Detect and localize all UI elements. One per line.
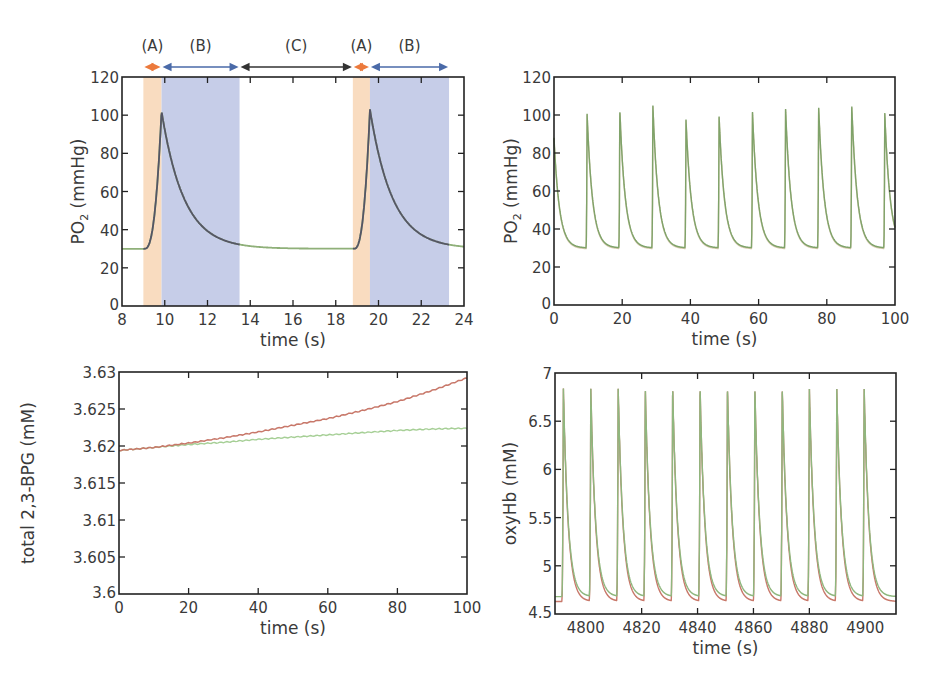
po2-trace-secondary xyxy=(554,106,895,248)
region-a xyxy=(353,77,370,306)
y-tick-label: 0 xyxy=(109,296,119,314)
x-tick-label: 12 xyxy=(198,311,217,329)
y-tick-label: 60 xyxy=(532,183,551,201)
arrowhead-right xyxy=(439,63,448,72)
x-tick-label: 16 xyxy=(283,311,302,329)
y-tick-label: 0 xyxy=(541,295,551,313)
x-axis-label: time (s) xyxy=(260,330,326,350)
plot-frame xyxy=(554,77,895,305)
x-tick-label: 40 xyxy=(681,310,700,328)
y-tick-label: 60 xyxy=(100,184,119,202)
x-tick-label: 4880 xyxy=(790,619,828,637)
arrowhead-right xyxy=(152,63,161,72)
region-b xyxy=(370,77,449,306)
y-tick-label: 3.6 xyxy=(92,584,116,602)
y-axis-label: total 2,3-BPG (mM) xyxy=(18,402,38,564)
panel-oxyhb: 4800482048404860488049004.555.566.57 tim… xyxy=(500,365,896,658)
y-tick-label: 120 xyxy=(90,69,119,87)
x-tick-label: 20 xyxy=(179,599,198,617)
phase-label-b: (B) xyxy=(190,37,212,55)
x-tick-label: 10 xyxy=(155,311,174,329)
x-tick-label: 60 xyxy=(318,599,337,617)
arrowhead-right xyxy=(343,63,352,72)
x-tick-label: 80 xyxy=(388,599,407,617)
y-tick-label: 3.625 xyxy=(73,401,116,419)
y-axis-label: oxyHb (mM) xyxy=(500,442,520,545)
arrowhead-left xyxy=(371,63,380,72)
x-tick-label: 4800 xyxy=(567,619,605,637)
y-tick-label: 3.605 xyxy=(73,549,116,567)
y-tick-label: 3.62 xyxy=(83,438,116,456)
x-tick-label: 14 xyxy=(241,311,260,329)
plot-frame xyxy=(119,372,467,594)
y-tick-label: 40 xyxy=(532,221,551,239)
bpg-trace-red xyxy=(119,378,467,451)
x-tick-label: 40 xyxy=(249,599,268,617)
oxyhb-trace-red xyxy=(555,389,896,602)
y-axis-label: PO2 (mmHg) xyxy=(501,138,524,244)
y-tick-label: 5.5 xyxy=(528,510,552,528)
phase-label-a: (A) xyxy=(141,37,163,55)
y-axis-label: PO2 (mmHg) xyxy=(68,138,91,244)
y-tick-label: 3.63 xyxy=(83,364,116,382)
x-tick-label: 60 xyxy=(749,310,768,328)
panel-po2-100s: 020406080100020406080100120 time (s) PO2… xyxy=(501,69,909,349)
panel-total-bpg: 0204060801003.63.6053.613.6153.623.6253.… xyxy=(18,364,481,638)
x-tick-label: 4860 xyxy=(734,619,772,637)
phase-label-b: (B) xyxy=(398,37,420,55)
x-tick-label: 20 xyxy=(613,310,632,328)
bpg-trace-green xyxy=(119,428,467,451)
x-axis-label: time (s) xyxy=(260,618,326,638)
y-tick-label: 100 xyxy=(522,107,551,125)
x-tick-label: 80 xyxy=(817,310,836,328)
x-tick-label: 18 xyxy=(326,311,345,329)
y-tick-label: 40 xyxy=(100,222,119,240)
y-tick-label: 3.61 xyxy=(83,512,116,530)
y-tick-label: 20 xyxy=(100,260,119,278)
plot-frame xyxy=(555,373,896,614)
y-tick-label: 80 xyxy=(532,145,551,163)
region-b xyxy=(162,77,240,306)
arrowhead-right xyxy=(360,63,369,72)
x-tick-label: 4840 xyxy=(678,619,716,637)
phase-arrows xyxy=(144,63,448,72)
y-tick-label: 6.5 xyxy=(528,413,552,431)
y-tick-label: 4.5 xyxy=(528,604,552,622)
phase-regions xyxy=(143,77,449,306)
y-tick-label: 6 xyxy=(542,461,552,479)
x-axis-label: time (s) xyxy=(693,638,759,658)
y-tick-label: 120 xyxy=(522,69,551,87)
x-tick-label: 4900 xyxy=(846,619,884,637)
y-tick-label: 5 xyxy=(542,558,552,576)
axis-ticks: 0204060801003.63.6053.613.6153.623.6253.… xyxy=(73,364,481,617)
figure-canvas: (A)(B)(C)(A)(B) 810121416182022240204060… xyxy=(0,0,951,696)
y-tick-label: 7 xyxy=(542,365,552,383)
x-tick-label: 4820 xyxy=(623,619,661,637)
x-tick-label: 100 xyxy=(453,599,482,617)
arrowhead-left xyxy=(163,63,172,72)
phase-labels: (A)(B)(C)(A)(B) xyxy=(141,37,420,55)
phase-label-c: (C) xyxy=(285,37,307,55)
y-tick-label: 20 xyxy=(532,259,551,277)
x-tick-label: 100 xyxy=(881,310,910,328)
y-tick-label: 100 xyxy=(90,107,119,125)
x-tick-label: 22 xyxy=(412,311,431,329)
phase-label-a: (A) xyxy=(350,37,372,55)
y-tick-label: 3.615 xyxy=(73,475,116,493)
arrowhead-left xyxy=(241,63,250,72)
po2-trace xyxy=(554,106,895,248)
region-a xyxy=(143,77,161,306)
x-axis-label: time (s) xyxy=(692,329,758,349)
x-tick-label: 20 xyxy=(369,311,388,329)
y-tick-label: 80 xyxy=(100,145,119,163)
arrowhead-right xyxy=(230,63,239,72)
panel-po2-single-cycle: (A)(B)(C)(A)(B) 810121416182022240204060… xyxy=(68,37,474,350)
x-tick-label: 24 xyxy=(454,311,473,329)
